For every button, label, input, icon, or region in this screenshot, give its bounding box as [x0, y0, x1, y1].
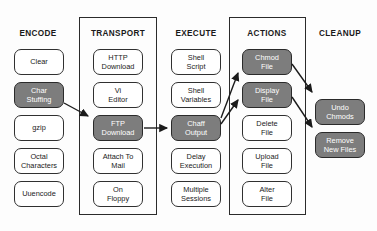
node-shell-variables[interactable]: Shell Variables: [171, 82, 221, 108]
node-clear[interactable]: Clear: [14, 49, 64, 75]
node-remove-new-files[interactable]: Remove New Files: [315, 132, 365, 158]
node-char-stuffing[interactable]: Char Stuffing: [14, 82, 64, 108]
node-chaff-output[interactable]: Chaff Output: [171, 115, 221, 141]
node-upload-file[interactable]: Upload File: [242, 148, 292, 174]
node-undo-chmods[interactable]: Undo Chmods: [315, 99, 365, 125]
column-title-encode: ENCODE: [19, 29, 56, 38]
column-title-actions: ACTIONS: [247, 29, 286, 38]
node-vi-editor[interactable]: Vi Editor: [93, 82, 143, 108]
node-delay-execution[interactable]: Delay Execution: [171, 148, 221, 174]
node-multiple-sessions[interactable]: Multiple Sessions: [171, 181, 221, 207]
node-octal-characters[interactable]: Octal Characters: [14, 148, 64, 174]
column-title-cleanup: CLEANUP: [319, 29, 361, 38]
node-alter-file[interactable]: Alter File: [242, 181, 292, 207]
node-ftp-download[interactable]: FTP Download: [93, 115, 143, 141]
column-title-execute: EXECUTE: [175, 29, 216, 38]
node-chmod-file[interactable]: Chmod File: [242, 49, 292, 75]
node-gzip[interactable]: gzip: [14, 115, 64, 141]
column-title-transport: TRANSPORT: [91, 29, 145, 38]
node-display-file[interactable]: Display File: [242, 82, 292, 108]
node-on-floppy[interactable]: On Floppy: [93, 181, 143, 207]
node-http-download[interactable]: HTTP Download: [93, 49, 143, 75]
node-attach-to-mail[interactable]: Attach To Mail: [93, 148, 143, 174]
node-shell-script[interactable]: Shell Script: [171, 49, 221, 75]
node-delete-file[interactable]: Delete File: [242, 115, 292, 141]
node-uuencode[interactable]: Uuencode: [14, 181, 64, 207]
diagram-canvas: ENCODE TRANSPORT EXECUTE ACTIONS CLEANUP…: [0, 0, 377, 231]
